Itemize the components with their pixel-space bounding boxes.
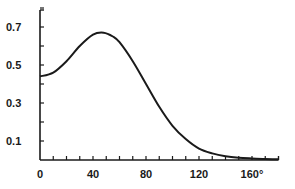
x-tick-label: 0	[37, 168, 43, 180]
y-tick-label: 0.5	[6, 59, 21, 71]
y-tick-label: 0.1	[6, 135, 21, 147]
x-tick-label: 40	[87, 168, 99, 180]
line-chart: 0.10.30.50.704080120160°	[0, 0, 295, 189]
x-tick-label: 120	[190, 168, 208, 180]
x-tick-label: 80	[140, 168, 152, 180]
y-tick-label: 0.7	[6, 21, 21, 33]
y-tick-label: 0.3	[6, 97, 21, 109]
data-curve	[40, 33, 279, 160]
x-tick-label: 160°	[241, 168, 264, 180]
ticks	[40, 8, 265, 160]
axes	[40, 10, 279, 160]
